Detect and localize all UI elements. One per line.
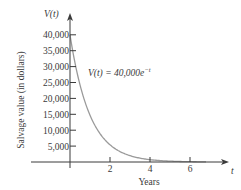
y-tick-label: 30,000 xyxy=(43,62,69,72)
annotation-lhs: V(t) = 40,000 xyxy=(88,68,140,79)
x-tick-label: 4 xyxy=(148,164,153,174)
y-axis-title: Salvage value (in dollars) xyxy=(16,51,27,148)
y-tick-label: 15,000 xyxy=(43,110,69,120)
annotation-exponent: −t xyxy=(144,66,150,73)
x-tick-label: 6 xyxy=(188,164,193,174)
x-axis-title: Years xyxy=(138,177,160,187)
salvage-value-chart: 246 5,00010,00015,00020,00025,00030,0003… xyxy=(0,0,241,190)
x-tick-label: 2 xyxy=(108,164,113,174)
y-ticks: 5,00010,00015,00020,00025,00030,00035,00… xyxy=(43,30,76,151)
x-axis-variable: t xyxy=(231,166,234,176)
y-tick-label: 5,000 xyxy=(48,142,70,152)
decay-curve xyxy=(70,35,206,162)
y-axis-variable: V(t) xyxy=(44,9,59,20)
y-tick-label: 35,000 xyxy=(43,46,69,56)
y-tick-label: 20,000 xyxy=(43,94,69,104)
y-tick-label: 40,000 xyxy=(43,30,69,40)
y-tick-label: 10,000 xyxy=(43,126,69,136)
x-ticks: 246 xyxy=(108,157,193,174)
y-tick-label: 25,000 xyxy=(43,78,69,88)
function-annotation: V(t) = 40,000e−t xyxy=(88,66,151,79)
series-line xyxy=(70,35,206,162)
